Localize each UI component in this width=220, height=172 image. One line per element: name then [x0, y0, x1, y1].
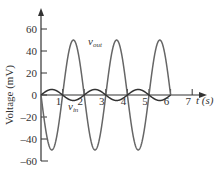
- y-tick-label: –60: [20, 155, 38, 167]
- y-tick-label: 60: [26, 23, 38, 35]
- y-tick-label: 0: [32, 89, 38, 101]
- voltage-chart: 6040200–20–40–60 1234567 vout vin t (s) …: [0, 0, 220, 172]
- y-axis-label: Voltage (mV): [3, 65, 16, 125]
- v-out-label: vout: [88, 35, 103, 49]
- y-ticks: 6040200–20–40–60: [20, 23, 48, 167]
- x-tick-label: 1: [56, 95, 62, 107]
- y-tick-label: 40: [26, 45, 38, 57]
- y-axis-arrow-icon: [38, 8, 44, 16]
- y-tick-label: –40: [20, 133, 38, 145]
- x-tick-label: 7: [185, 95, 191, 107]
- y-tick-label: –20: [20, 111, 38, 123]
- x-axis-label: t (s): [196, 94, 214, 107]
- y-tick-label: 20: [26, 67, 38, 79]
